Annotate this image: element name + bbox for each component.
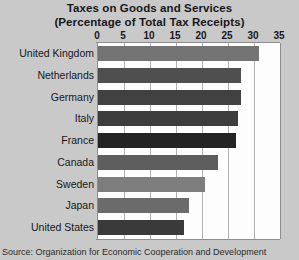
x-tick-label-10: 10: [140, 30, 158, 42]
bar-row: France: [98, 130, 280, 152]
bar-row: Netherlands: [98, 65, 280, 87]
chart-subtitle: (Percentage of Total Tax Receipts): [0, 15, 299, 29]
category-label: France: [2, 133, 94, 148]
category-label: Italy: [2, 111, 94, 126]
bar-row: United States: [98, 217, 280, 239]
bar-row: Germany: [98, 87, 280, 109]
category-label: United Kingdom: [2, 46, 94, 61]
category-label: Netherlands: [2, 68, 94, 83]
plot-area: United KingdomNetherlandsGermanyItalyFra…: [97, 43, 281, 239]
category-label: United States: [2, 220, 94, 235]
category-label: Sweden: [2, 177, 94, 192]
bar-netherlands: [98, 68, 241, 83]
bar-canada: [98, 155, 218, 170]
bar-italy: [98, 111, 238, 126]
x-tick-label-0: 0: [88, 30, 106, 42]
bar-sweden: [98, 177, 205, 192]
x-tick-label-35: 35: [270, 30, 288, 42]
category-label: Canada: [2, 155, 94, 170]
plot-bottom-border: [96, 239, 280, 240]
chart-title: Taxes on Goods and Services: [0, 1, 299, 15]
x-axis-tick-labels: 05101520253035: [0, 30, 299, 42]
x-tick-label-30: 30: [244, 30, 262, 42]
bar-row: Italy: [98, 108, 280, 130]
chart-title-block: Taxes on Goods and Services (Percentage …: [0, 1, 299, 29]
bar-japan: [98, 198, 189, 213]
x-tick-label-15: 15: [166, 30, 184, 42]
bar-row: Japan: [98, 195, 280, 217]
category-label: Japan: [2, 198, 94, 213]
chart-source: Source: Organization for Economic Cooper…: [2, 247, 266, 258]
bar-france: [98, 133, 236, 148]
x-tick-label-25: 25: [218, 30, 236, 42]
bar-germany: [98, 90, 241, 105]
bar-row: Sweden: [98, 174, 280, 196]
bar-row: United Kingdom: [98, 43, 280, 65]
x-tick-label-20: 20: [192, 30, 210, 42]
chart-figure: Taxes on Goods and Services (Percentage …: [0, 0, 299, 260]
bar-united-kingdom: [98, 46, 259, 61]
bar-united-states: [98, 220, 184, 235]
bar-row: Canada: [98, 152, 280, 174]
x-tick-label-5: 5: [114, 30, 132, 42]
category-label: Germany: [2, 90, 94, 105]
